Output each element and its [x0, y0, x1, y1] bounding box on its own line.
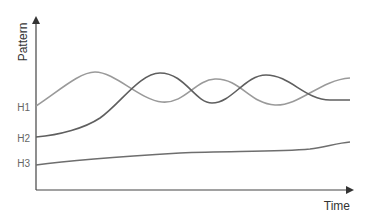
x-axis-title: Time [324, 199, 351, 213]
series-line-h2 [36, 73, 350, 137]
series-line-h1 [36, 72, 350, 106]
level-label-h3: H3 [17, 158, 30, 169]
level-label-h2: H2 [17, 133, 30, 144]
y-axis-title: Pattern [16, 23, 30, 62]
series-line-h3 [36, 142, 350, 165]
pattern-time-diagram: Pattern Time H1 H2 H3 [0, 0, 368, 220]
level-label-h1: H1 [17, 102, 30, 113]
